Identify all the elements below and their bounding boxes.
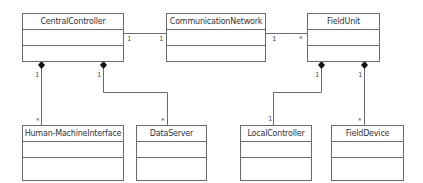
multiplicity-label: 1	[35, 72, 39, 79]
class-name: LocalController	[241, 126, 311, 142]
multiplicity-label: 1	[159, 36, 163, 43]
attributes-section	[23, 142, 123, 158]
operations-section	[241, 158, 311, 174]
class-data-server[interactable]: DataServer	[136, 125, 207, 181]
multiplicity-label: 1	[127, 36, 131, 43]
class-name: CommunicationNetwork	[167, 14, 265, 30]
composition-diamond-icon	[38, 61, 45, 69]
attributes-section	[23, 30, 123, 46]
composition-diamond-icon	[361, 61, 368, 69]
class-communication-network[interactable]: CommunicationNetwork	[166, 13, 266, 62]
operations-section	[332, 158, 403, 174]
class-name: FieldDevice	[332, 126, 403, 142]
operations-section	[137, 158, 206, 174]
attributes-section	[167, 30, 265, 46]
composition-diamond-icon	[100, 61, 107, 69]
multiplicity-label: *	[299, 36, 303, 43]
multiplicity-label: *	[161, 118, 165, 125]
composition-diamond-icon	[318, 61, 325, 69]
multiplicity-label: *	[36, 118, 40, 125]
class-name: Human-MachineInterface	[23, 126, 123, 142]
multiplicity-label: 1	[315, 72, 319, 79]
multiplicity-label: 1	[272, 36, 276, 43]
class-field-device[interactable]: FieldDevice	[331, 125, 404, 181]
multiplicity-label: *	[358, 118, 362, 125]
class-name: CentralController	[23, 14, 123, 30]
operations-section	[23, 46, 123, 62]
operations-section	[23, 158, 123, 174]
class-central-controller[interactable]: CentralController	[22, 13, 124, 62]
multiplicity-label: 1	[97, 72, 101, 79]
attributes-section	[308, 30, 379, 46]
operations-section	[167, 46, 265, 62]
multiplicity-label: 1	[268, 116, 272, 123]
class-name: DataServer	[137, 126, 206, 142]
attributes-section	[332, 142, 403, 158]
multiplicity-label: 1	[358, 72, 362, 79]
class-local-controller[interactable]: LocalController	[240, 125, 312, 181]
attributes-section	[241, 142, 311, 158]
attributes-section	[137, 142, 206, 158]
operations-section	[308, 46, 379, 62]
class-human-machine-interface[interactable]: Human-MachineInterface	[22, 125, 124, 181]
composition-central-dataserver	[104, 67, 168, 125]
class-field-unit[interactable]: FieldUnit	[307, 13, 380, 62]
class-name: FieldUnit	[308, 14, 379, 30]
